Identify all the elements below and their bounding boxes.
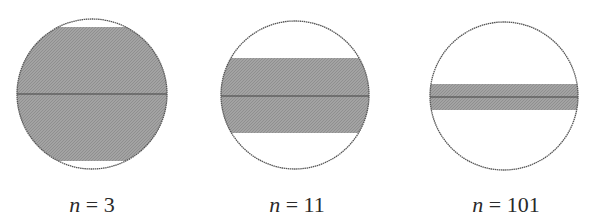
- variable-n: n: [472, 192, 483, 217]
- value: 3: [104, 192, 115, 217]
- variable-n: n: [69, 192, 80, 217]
- panel-n-11: [219, 21, 371, 169]
- equals-sign: =: [286, 192, 298, 217]
- value: 101: [507, 192, 540, 217]
- figure-canvas: [0, 0, 598, 222]
- label-n-101: n = 101: [446, 190, 566, 220]
- panel-n-101: [428, 22, 580, 170]
- equals-sign: =: [86, 192, 98, 217]
- label-n-3: n = 3: [32, 190, 152, 220]
- panel-n-3: [15, 19, 169, 169]
- figure-stage: n = 3 n = 11 n = 101: [0, 0, 598, 222]
- label-n-11: n = 11: [237, 190, 357, 220]
- equals-sign: =: [489, 192, 501, 217]
- variable-n: n: [269, 192, 280, 217]
- value: 11: [304, 192, 325, 217]
